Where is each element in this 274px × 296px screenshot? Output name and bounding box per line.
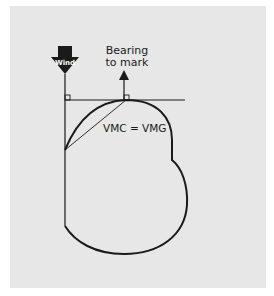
polar-diagram: Wind Bearing to mark VMC = VMG bbox=[0, 0, 274, 296]
right-angle-marker-left bbox=[65, 95, 70, 100]
wind-label: Wind bbox=[55, 59, 75, 67]
bearing-arrow-icon bbox=[119, 70, 129, 80]
bearing-label-line2: to mark bbox=[106, 56, 150, 69]
vmc-vmg-label: VMC = VMG bbox=[103, 122, 166, 134]
